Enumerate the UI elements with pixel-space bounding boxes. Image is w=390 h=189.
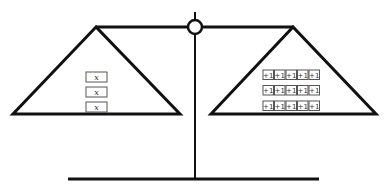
plus-one-label: +1: [275, 103, 285, 111]
plus-one-label: +1: [275, 72, 285, 80]
plus-one-label: +1: [263, 87, 273, 95]
plus-one-block: +1: [275, 86, 286, 96]
plus-one-label: +1: [298, 72, 308, 80]
plus-one-label: +1: [298, 103, 308, 111]
plus-one-label: +1: [298, 87, 308, 95]
pivot-circle: [188, 20, 202, 34]
plus-one-block: +1: [298, 70, 309, 80]
plus-one-label: +1: [309, 72, 319, 80]
plus-one-label: +1: [263, 72, 273, 80]
plus-one-label: +1: [286, 87, 296, 95]
right-pan: +1+1+1+1+1+1+1+1+1+1+1+1+1+1+1: [211, 27, 376, 114]
x-label: x: [94, 88, 99, 97]
plus-one-block: +1: [286, 86, 297, 96]
left-pan-items: x x x: [86, 72, 107, 112]
plus-one-label: +1: [286, 72, 296, 80]
plus-one-block: +1: [263, 86, 274, 96]
plus-one-label: +1: [309, 103, 319, 111]
x-label: x: [94, 103, 99, 112]
plus-one-block: +1: [309, 101, 320, 111]
plus-one-block: +1: [275, 101, 286, 111]
x-label: x: [94, 73, 99, 82]
plus-one-block: +1: [309, 70, 320, 80]
plus-one-block: +1: [286, 70, 297, 80]
plus-one-block: +1: [275, 70, 286, 80]
x-block: x: [86, 87, 107, 97]
plus-one-block: +1: [298, 86, 309, 96]
x-block: x: [86, 72, 107, 82]
left-pan-triangle: [13, 27, 180, 114]
plus-one-label: +1: [286, 103, 296, 111]
plus-one-block: +1: [298, 101, 309, 111]
x-block: x: [86, 102, 107, 112]
left-pan: x x x: [13, 27, 180, 114]
balance-scale-diagram: x x x +1+1+1+1+1+1+1+1+1+1+1+1+1+1+1: [0, 0, 390, 189]
right-pan-items: +1+1+1+1+1+1+1+1+1+1+1+1+1+1+1: [263, 70, 320, 111]
plus-one-block: +1: [263, 70, 274, 80]
plus-one-block: +1: [263, 101, 274, 111]
plus-one-block: +1: [309, 86, 320, 96]
plus-one-label: +1: [263, 103, 273, 111]
plus-one-label: +1: [309, 87, 319, 95]
plus-one-label: +1: [275, 87, 285, 95]
plus-one-block: +1: [286, 101, 297, 111]
